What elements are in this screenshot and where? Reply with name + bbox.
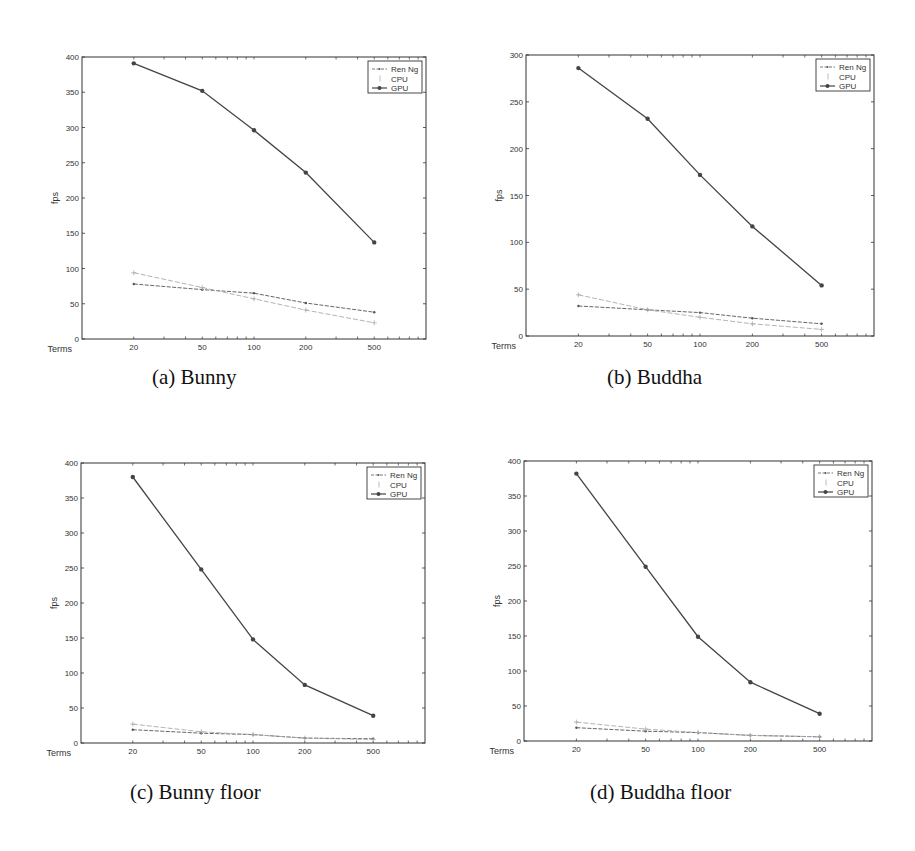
- y-tick-label: 100: [508, 667, 522, 676]
- legend-label: GPU: [391, 84, 409, 93]
- y-tick-label: 50: [514, 285, 523, 294]
- y-tick-label: 150: [65, 634, 79, 643]
- y-tick-label: 150: [510, 192, 524, 201]
- x-tick-label: 100: [693, 340, 707, 349]
- caption-d: (d) Buddha floor: [590, 780, 731, 805]
- data-point: [251, 637, 255, 641]
- data-point: [645, 116, 649, 120]
- data-point: [748, 733, 753, 738]
- data-point: [371, 714, 375, 718]
- data-point: [574, 471, 578, 475]
- caption-c: (c) Bunny floor: [130, 780, 261, 805]
- series-gpu: [576, 66, 824, 288]
- data-point: [576, 66, 580, 70]
- x-tick-label: 500: [815, 340, 829, 349]
- y-tick-label: 300: [66, 124, 80, 133]
- y-tick-label: 150: [508, 632, 522, 641]
- data-point: [698, 173, 702, 177]
- data-point: [820, 323, 822, 325]
- plot-frame: [81, 463, 425, 743]
- y-tick-label: 50: [512, 702, 521, 711]
- x-tick-label: 50: [643, 340, 652, 349]
- x-tick-label: 500: [368, 343, 382, 352]
- data-point: [645, 307, 650, 312]
- y-tick-label: 250: [66, 159, 80, 168]
- y-tick-label: 0: [75, 335, 80, 344]
- y-tick-label: 400: [508, 457, 522, 466]
- y-tick-label: 0: [517, 737, 522, 746]
- y-tick-label: 400: [65, 459, 79, 468]
- data-point: [251, 732, 256, 737]
- data-point: [699, 311, 701, 313]
- x-tick-label: 200: [299, 343, 313, 352]
- data-point: [130, 722, 135, 727]
- data-point: [372, 320, 377, 325]
- data-point: [252, 296, 257, 301]
- y-tick-label: 250: [65, 564, 79, 573]
- y-tick-label: 200: [65, 599, 79, 608]
- line-chart-a: 0501001502002503003504002050100200500Ter…: [0, 0, 460, 350]
- x-tick-label: 100: [247, 343, 261, 352]
- data-point: [373, 311, 375, 313]
- y-tick-label: 350: [508, 492, 522, 501]
- x-tick-label: 500: [367, 747, 381, 756]
- x-tick-label: 200: [744, 745, 758, 754]
- data-point: [302, 736, 307, 741]
- legend-label: GPU: [839, 82, 857, 91]
- data-point: [696, 730, 701, 735]
- data-point: [819, 283, 823, 287]
- y-tick-label: 350: [66, 88, 80, 97]
- legend: Ren NgCPUGPU: [814, 465, 868, 497]
- y-tick-label: 0: [519, 332, 524, 341]
- x-tick-label: 100: [691, 745, 705, 754]
- x-tick-label: 200: [298, 747, 312, 756]
- data-point: [132, 61, 136, 65]
- line-chart-b: 0501001502002503002050100200500TermsfpsR…: [460, 0, 915, 350]
- legend-label: Ren Ng: [390, 471, 417, 480]
- data-point: [817, 734, 822, 739]
- legend: Ren NgCPUGPU: [368, 61, 422, 93]
- data-point: [305, 302, 307, 304]
- data-point: [200, 89, 204, 93]
- data-point: [575, 727, 577, 729]
- data-point: [371, 737, 376, 742]
- data-point: [819, 327, 824, 332]
- data-point: [577, 305, 579, 307]
- data-point: [748, 680, 752, 684]
- y-axis-title: fps: [49, 597, 59, 610]
- x-tick-label: 50: [197, 747, 206, 756]
- legend-label: GPU: [390, 490, 408, 499]
- caption-b: (b) Buddha: [607, 365, 702, 390]
- plot-frame: [524, 461, 872, 741]
- caption-a: (a) Bunny: [152, 365, 237, 390]
- data-point: [696, 635, 700, 639]
- x-tick-label: 100: [246, 747, 260, 756]
- x-axis-title: Terms: [490, 746, 515, 756]
- y-tick-label: 250: [510, 98, 524, 107]
- data-point: [574, 720, 579, 725]
- y-tick-label: 100: [510, 238, 524, 247]
- y-tick-label: 250: [508, 562, 522, 571]
- legend-label: Ren Ng: [837, 469, 864, 478]
- y-tick-label: 100: [65, 669, 79, 678]
- data-point: [750, 321, 755, 326]
- x-tick-label: 200: [746, 340, 760, 349]
- data-point: [303, 683, 307, 687]
- legend-label: GPU: [837, 488, 855, 497]
- data-point: [199, 567, 203, 571]
- x-tick-label: 20: [129, 343, 138, 352]
- x-axis-title: Terms: [47, 748, 72, 758]
- series-gpu: [131, 475, 376, 718]
- data-point: [576, 292, 581, 297]
- chart-panel-a: 0501001502002503003504002050100200500Ter…: [0, 0, 460, 350]
- y-tick-label: 300: [508, 527, 522, 536]
- data-point: [252, 128, 256, 132]
- legend-label: Ren Ng: [391, 65, 418, 74]
- legend: Ren NgCPUGPU: [816, 59, 870, 91]
- y-axis-title: fps: [492, 595, 502, 608]
- data-point: [131, 270, 136, 275]
- y-tick-label: 150: [66, 229, 80, 238]
- y-tick-label: 400: [66, 53, 80, 62]
- legend-label: Ren Ng: [839, 63, 866, 72]
- y-tick-label: 300: [510, 51, 524, 60]
